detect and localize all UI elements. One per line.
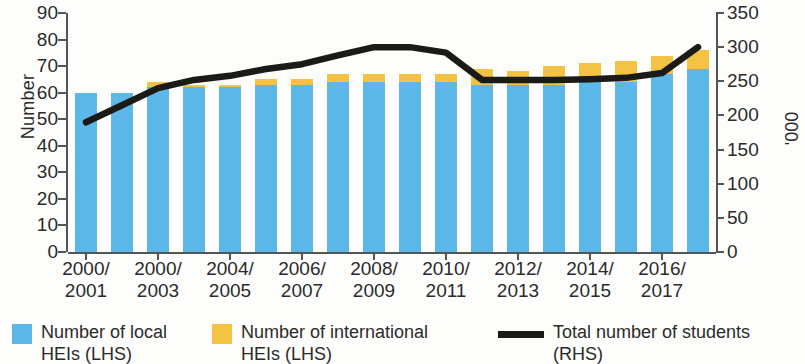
bar-segment-international-heis <box>651 56 673 75</box>
y-axis-left-tick <box>58 145 66 147</box>
y-axis-left-tick <box>58 92 66 94</box>
y-axis-left-tick <box>58 118 66 120</box>
y-axis-right-tick <box>716 149 724 151</box>
x-axis-line <box>68 252 716 254</box>
bar-segment-local-heis <box>543 85 565 252</box>
y-axis-right-tick <box>716 251 724 253</box>
x-axis-tick-label-line1: 2006/ <box>278 258 326 279</box>
bar-segment-local-heis <box>507 85 529 252</box>
bar-segment-international-heis <box>255 79 277 84</box>
y-axis-right-tick <box>716 80 724 82</box>
bar-segment-local-heis <box>75 93 97 252</box>
bar-column <box>219 85 241 252</box>
bar-column <box>291 79 313 252</box>
bar-column <box>507 71 529 252</box>
plot-area <box>68 13 716 252</box>
x-axis-tick-label-line1: 2000/ <box>134 258 182 279</box>
y-axis-left-tick-label: 60 <box>37 83 58 102</box>
y-axis-right-tick <box>716 217 724 219</box>
bar-segment-international-heis <box>435 74 457 82</box>
x-axis-tick-label-line1: 2000/ <box>62 258 110 279</box>
bar-column <box>111 93 133 252</box>
y-axis-left-tick-labels: 0102030405060708090 <box>4 0 58 364</box>
legend-item-local-heis: Number of local HEIs (LHS) <box>12 322 167 364</box>
y-axis-left-tick-label: 90 <box>37 3 58 22</box>
x-axis-tick-label-line1: 2016/ <box>638 258 686 279</box>
bar-segment-local-heis <box>399 82 421 252</box>
bar-segment-local-heis <box>651 74 673 252</box>
bar-column <box>687 50 709 252</box>
bar-segment-local-heis <box>255 85 277 252</box>
bar-column <box>579 63 601 252</box>
bar-segment-international-heis <box>507 71 529 84</box>
y-axis-left-tick-label: 80 <box>37 30 58 49</box>
y-axis-right-tick <box>716 12 724 14</box>
y-axis-right-tick-label: 200 <box>727 105 759 124</box>
x-axis-tick-labels: 2000/20012000/20032004/20052006/20072008… <box>68 258 716 316</box>
bar-column <box>435 74 457 252</box>
y-axis-right-tick <box>716 114 724 116</box>
bar-segment-local-heis <box>687 69 709 252</box>
chart-figure: Number '000 0102030405060708090 05010015… <box>0 0 805 364</box>
bar-segment-local-heis <box>363 82 385 252</box>
y-axis-right-tick <box>716 183 724 185</box>
y-axis-left-line <box>66 13 68 252</box>
x-axis-tick-label-line2: 2017 <box>617 280 707 302</box>
chart-legend: Number of local HEIs (LHS) Number of int… <box>0 322 805 364</box>
bar-column <box>543 66 565 252</box>
legend-label-local-heis: Number of local HEIs (LHS) <box>41 322 167 364</box>
bar-segment-international-heis <box>219 85 241 88</box>
y-axis-left-tick <box>58 251 66 253</box>
y-axis-left-tick <box>58 198 66 200</box>
bar-column <box>363 74 385 252</box>
bar-segment-international-heis <box>543 66 565 85</box>
bar-segment-international-heis <box>183 85 205 88</box>
legend-item-total-students: Total number of students (RHS) <box>498 322 750 364</box>
bar-column <box>75 93 97 252</box>
x-axis-tick-label-line1: 2010/ <box>422 258 470 279</box>
bar-column <box>615 61 637 252</box>
legend-item-international-heis: Number of international HEIs (LHS) <box>212 322 428 364</box>
bar-segment-local-heis <box>435 82 457 252</box>
y-axis-left-tick <box>58 171 66 173</box>
bar-segment-local-heis <box>471 85 493 252</box>
bar-segment-international-heis <box>327 74 349 82</box>
bar-segment-international-heis <box>471 69 493 85</box>
bar-column <box>327 74 349 252</box>
bar-segment-international-heis <box>363 74 385 82</box>
bar-column <box>399 74 421 252</box>
y-axis-right-tick <box>716 46 724 48</box>
bar-segment-local-heis <box>615 82 637 252</box>
y-axis-left-tick <box>58 224 66 226</box>
legend-swatch-line-icon <box>498 331 544 338</box>
legend-label-international-heis: Number of international HEIs (LHS) <box>241 322 428 364</box>
legend-swatch-local-icon <box>12 324 32 344</box>
y-axis-right-tick-label: 300 <box>727 37 759 56</box>
bar-segment-international-heis <box>687 50 709 69</box>
bar-segment-local-heis <box>111 93 133 252</box>
bar-segment-local-heis <box>291 85 313 252</box>
y-axis-right-tick-label: 100 <box>727 174 759 193</box>
x-axis-tick-label-line1: 2012/ <box>494 258 542 279</box>
bar-segment-international-heis <box>147 82 169 87</box>
y-axis-left-tick-label: 10 <box>37 215 58 234</box>
y-axis-left-tick-label: 50 <box>37 109 58 128</box>
bar-column <box>147 82 169 252</box>
y-axis-right-tick-label: 50 <box>727 208 748 227</box>
y-axis-right-tick-labels: 050100150200250300350 <box>727 0 787 364</box>
y-axis-left-tick-label: 30 <box>37 162 58 181</box>
bar-segment-local-heis <box>219 87 241 252</box>
bar-segment-international-heis <box>615 61 637 82</box>
y-axis-right-tick-label: 150 <box>727 140 759 159</box>
y-axis-right-tick-label: 250 <box>727 71 759 90</box>
total-students-line <box>86 47 698 122</box>
bar-segment-international-heis <box>291 79 313 84</box>
bar-column <box>471 69 493 252</box>
bar-segment-local-heis <box>327 82 349 252</box>
bar-segment-local-heis <box>147 87 169 252</box>
y-axis-left-tick-label: 20 <box>37 189 58 208</box>
y-axis-left-tick <box>58 65 66 67</box>
bar-column <box>183 85 205 252</box>
x-axis-tick-label: 2016/2017 <box>617 258 707 302</box>
bar-segment-international-heis <box>399 74 421 82</box>
